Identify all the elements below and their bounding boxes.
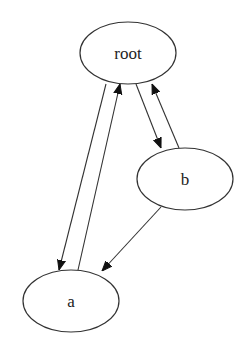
edge-b-to-root — [152, 84, 179, 148]
node-b-label: b — [181, 170, 190, 189]
graph-canvas: root b a — [0, 0, 251, 353]
node-root-label: root — [114, 44, 142, 63]
node-b[interactable]: b — [137, 148, 233, 210]
directed-graph: root b a — [0, 0, 251, 353]
edge-root-to-b — [136, 84, 161, 148]
node-a-label: a — [67, 292, 75, 311]
node-root[interactable]: root — [80, 22, 176, 84]
edge-b-to-a — [102, 207, 161, 271]
node-a[interactable]: a — [23, 270, 119, 332]
